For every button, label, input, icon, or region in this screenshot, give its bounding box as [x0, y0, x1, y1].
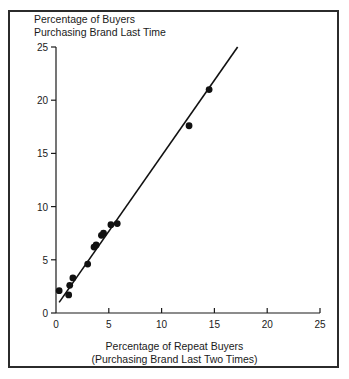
x-tick-label: 10	[156, 319, 167, 330]
data-point	[69, 274, 76, 281]
data-points	[56, 86, 213, 298]
data-point	[100, 230, 107, 237]
data-point	[114, 220, 121, 227]
y-tick-label: 5	[22, 254, 48, 265]
x-axis-title: Percentage of Repeat Buyers (Purchasing …	[0, 340, 349, 366]
axes-group	[56, 47, 320, 313]
data-point	[56, 287, 63, 294]
x-tick-label: 20	[262, 319, 273, 330]
data-point	[108, 221, 115, 228]
x-tick-label: 15	[209, 319, 220, 330]
y-tick-label: 20	[22, 95, 48, 106]
data-point	[65, 292, 72, 299]
y-tick-label: 10	[22, 201, 48, 212]
data-point	[186, 122, 193, 129]
data-point	[93, 242, 100, 249]
y-tick-label: 25	[22, 42, 48, 53]
figure-container: Percentage of Buyers Purchasing Brand La…	[0, 0, 349, 379]
data-point	[66, 282, 73, 289]
x-axis-title-line-1: Percentage of Repeat Buyers	[0, 340, 349, 353]
x-tick-marks	[109, 308, 320, 313]
y-tick-label: 15	[22, 148, 48, 159]
x-tick-label: 0	[53, 319, 59, 330]
data-point	[206, 86, 213, 93]
x-tick-label: 25	[314, 319, 325, 330]
y-tick-marks	[51, 47, 56, 313]
y-tick-label: 0	[22, 308, 48, 319]
x-tick-label: 5	[106, 319, 112, 330]
data-point	[84, 261, 91, 268]
x-axis-title-line-2: (Purchasing Brand Last Two Times)	[0, 353, 349, 366]
